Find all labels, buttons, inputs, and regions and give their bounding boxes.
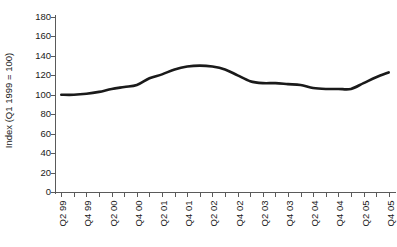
x-axis-tick-mark: [212, 193, 213, 197]
x-axis-tick-mark: [99, 193, 100, 197]
x-axis-tick-mark: [313, 193, 314, 197]
x-axis-tick-mark: [275, 193, 276, 197]
x-axis-tick-value: Q2 99: [57, 201, 68, 241]
x-axis-tick-label: Q4 02: [233, 199, 243, 245]
x-axis-tick-mark: [250, 193, 251, 197]
x-axis-tick-mark: [288, 193, 289, 197]
x-axis-tick-label: Q4 05: [384, 199, 394, 245]
x-axis-tick-mark: [175, 193, 176, 197]
y-axis-tick-label: 180: [4, 12, 51, 22]
x-axis-tick-mark: [137, 193, 138, 197]
x-axis-tick-mark: [162, 193, 163, 197]
x-axis-tick-mark: [301, 193, 302, 197]
y-axis-tick-label: 20: [4, 168, 51, 178]
x-axis-tick-label: Q2 02: [207, 199, 217, 245]
x-axis-tick-value: Q4 99: [82, 201, 93, 241]
x-axis-tick-mark: [61, 193, 62, 197]
y-axis-tick-value: 180: [35, 12, 51, 22]
x-axis-tick-mark: [351, 193, 352, 197]
x-axis-tick-value: Q4 02: [233, 201, 244, 241]
y-axis-tick-value: 40: [40, 148, 51, 158]
y-axis-tick-label: 60: [4, 129, 51, 139]
x-axis-tick-label: Q2 01: [157, 199, 167, 245]
x-axis-tick-label: Q4 04: [333, 199, 343, 245]
x-axis-tick-mark: [326, 193, 327, 197]
y-axis-tick-value: 100: [35, 90, 51, 100]
x-axis-tick-value: Q2 02: [208, 201, 219, 241]
y-axis-tick-label: 120: [4, 70, 51, 80]
y-axis-tick-value: 120: [35, 70, 51, 80]
x-axis-tick-mark: [376, 193, 377, 197]
x-axis-tick-value: Q4 04: [334, 201, 345, 241]
x-axis-tick-value: Q4 01: [183, 201, 194, 241]
x-axis-tick-value: Q4 05: [384, 201, 395, 241]
data-line-svg: [55, 17, 395, 192]
y-axis-tick-label: 80: [4, 109, 51, 119]
y-axis-tick-label: 160: [4, 31, 51, 41]
x-axis-tick-value: Q2 01: [158, 201, 169, 241]
line-chart: Index (Q1 1999 = 100) 020406080100120140…: [0, 0, 397, 247]
x-axis-tick-mark: [124, 193, 125, 197]
x-axis-tick-mark: [112, 193, 113, 197]
x-axis-tick-mark: [364, 193, 365, 197]
x-axis-tick-label: Q2 05: [359, 199, 369, 245]
x-axis-tick-value: Q2 05: [359, 201, 370, 241]
x-axis-tick-mark: [74, 193, 75, 197]
y-axis-tick-label: 40: [4, 148, 51, 158]
x-axis-tick-value: Q2 00: [107, 201, 118, 241]
x-axis-tick-label: Q2 04: [308, 199, 318, 245]
x-axis-tick-label: Q2 00: [107, 199, 117, 245]
x-axis-tick-mark: [149, 193, 150, 197]
x-axis-tick-label: Q2 99: [56, 199, 66, 245]
y-axis-tick-group: 020406080100120140160180: [0, 0, 51, 247]
x-axis-tick-mark: [238, 193, 239, 197]
x-axis-tick-mark: [86, 193, 87, 197]
x-axis-tick-label: Q4 99: [81, 199, 91, 245]
y-axis-tick-value: 20: [40, 168, 51, 178]
data-series-line: [61, 66, 388, 95]
x-axis-tick-label: Q4 00: [132, 199, 142, 245]
y-axis-tick-value: 80: [40, 109, 51, 119]
plot-area: [55, 17, 395, 192]
x-axis-tick-value: Q2 04: [309, 201, 320, 241]
y-axis-tick-value: 140: [35, 51, 51, 61]
y-axis-tick-value: 60: [40, 129, 51, 139]
x-axis-tick-label: Q4 03: [283, 199, 293, 245]
x-axis-tick-mark: [187, 193, 188, 197]
x-axis-tick-mark: [200, 193, 201, 197]
x-axis-tick-label: Q4 01: [182, 199, 192, 245]
x-axis-tick-value: Q4 00: [132, 201, 143, 241]
x-axis-tick-mark: [338, 193, 339, 197]
y-axis-tick-label: 140: [4, 51, 51, 61]
x-axis-tick-value: Q4 03: [283, 201, 294, 241]
y-axis-tick-label: 0: [4, 187, 51, 197]
x-axis-tick-value: Q2 03: [258, 201, 269, 241]
x-axis-tick-label: Q2 03: [258, 199, 268, 245]
x-axis-tick-mark: [389, 193, 390, 197]
x-axis-tick-mark: [225, 193, 226, 197]
x-axis-tick-mark: [263, 193, 264, 197]
y-axis-tick-label: 100: [4, 90, 51, 100]
y-axis-tick-value: 160: [35, 31, 51, 41]
